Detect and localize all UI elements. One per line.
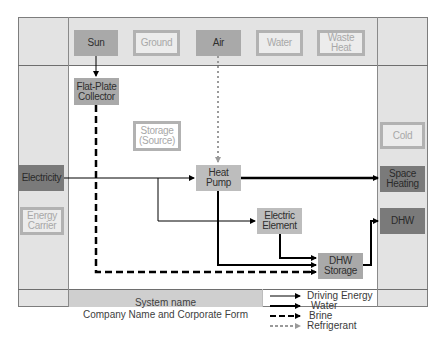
source-water[interactable]: Water xyxy=(256,30,303,56)
heat-pump[interactable]: Heat Pump xyxy=(196,165,241,191)
flat-plate-collector[interactable]: Flat-Plate Collector xyxy=(74,78,119,105)
source-ground[interactable]: Ground xyxy=(133,30,180,56)
footer-system-name: System name xyxy=(69,297,262,309)
footer-company: Company Name and Corporate Form xyxy=(69,309,262,321)
storage-source[interactable]: Storage (Source) xyxy=(133,121,181,151)
carrier-electricity[interactable]: Electricity xyxy=(19,165,64,191)
legend-refrigerant: Refrigerant xyxy=(307,321,356,331)
carrier-energy-carrier[interactable]: Energy Carrier xyxy=(20,207,64,235)
output-dhw[interactable]: DHW xyxy=(380,208,425,234)
dhw-storage[interactable]: DHW Storage xyxy=(318,253,363,279)
source-waste-heat[interactable]: Waste Heat xyxy=(317,30,365,56)
output-space-heating[interactable]: Space Heating xyxy=(380,166,425,192)
electric-element[interactable]: Electric Element xyxy=(257,208,302,234)
source-sun[interactable]: Sun xyxy=(74,30,118,56)
source-air[interactable]: Air xyxy=(196,30,241,56)
output-cold[interactable]: Cold xyxy=(380,122,425,149)
